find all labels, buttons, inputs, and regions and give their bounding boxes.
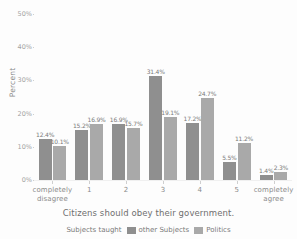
y-tick-label: 50% xyxy=(0,10,32,18)
bar-value-label: 31.4% xyxy=(147,68,165,75)
bar-value-label: 24.7% xyxy=(198,90,216,97)
bar-value-label: 10.1% xyxy=(51,138,69,145)
y-tick-label: 40% xyxy=(0,43,32,51)
bar xyxy=(186,123,199,180)
bar-value-label: 5.5% xyxy=(222,154,236,161)
y-tick-label: 10% xyxy=(0,143,32,151)
bar xyxy=(201,98,214,180)
bar xyxy=(53,146,66,180)
clipped-title xyxy=(34,0,292,10)
bar xyxy=(223,162,236,180)
bar-value-label: 12.4% xyxy=(36,131,54,138)
x-tick-label: 1 xyxy=(87,186,92,195)
bar-value-label: 17.2% xyxy=(184,115,202,122)
bar-value-label: 2.3% xyxy=(274,164,288,171)
legend-label-politics: Politics xyxy=(206,226,230,234)
bar-value-label: 19.1% xyxy=(161,109,179,116)
bar xyxy=(127,128,140,180)
x-tick-label: 3 xyxy=(161,186,166,195)
legend-swatch-other-subjects xyxy=(127,227,136,234)
bar-value-label: 15.7% xyxy=(124,120,142,127)
y-tick-label: 20% xyxy=(0,110,32,118)
bar xyxy=(274,172,287,180)
x-axis-title: Citizens should obey their government. xyxy=(0,208,297,218)
bar xyxy=(112,124,125,180)
bar xyxy=(164,117,177,180)
legend-item-politics: Politics xyxy=(194,226,230,234)
x-tick-mark xyxy=(274,181,275,184)
bar xyxy=(39,139,52,180)
legend-item-other-subjects: other Subjects xyxy=(127,226,190,234)
x-tick-mark xyxy=(126,181,127,184)
bar-value-label: 1.4% xyxy=(259,167,273,174)
x-tick-label: 5 xyxy=(234,186,239,195)
x-tick-label: 2 xyxy=(124,186,129,195)
bar xyxy=(75,130,88,180)
x-tick-mark xyxy=(89,181,90,184)
bar xyxy=(238,143,251,180)
bar xyxy=(260,175,273,180)
plot-area: 12.4%10.1%15.2%16.9%16.9%15.7%31.4%19.1%… xyxy=(34,14,292,180)
bar-value-label: 16.9% xyxy=(88,116,106,123)
y-tick-label: 30% xyxy=(0,76,32,84)
bar xyxy=(149,76,162,180)
x-tick-label: completelyagree xyxy=(254,186,294,204)
x-tick-mark xyxy=(200,181,201,184)
legend-title: Subjects taught xyxy=(66,226,121,234)
x-tick-label: 4 xyxy=(198,186,203,195)
x-tick-mark xyxy=(52,181,53,184)
legend-label-other-subjects: other Subjects xyxy=(139,226,190,234)
x-tick-mark xyxy=(163,181,164,184)
bar-value-label: 11.2% xyxy=(235,135,253,142)
y-tick-label: 0% xyxy=(0,176,32,184)
chart-legend: Subjects taught other Subjects Politics xyxy=(0,226,297,234)
bar xyxy=(90,124,103,180)
x-tick-label: completelydisagree xyxy=(33,186,73,204)
bar-chart-figure: Percent 0%10%20%30%40%50% 12.4%10.1%15.2… xyxy=(0,0,297,239)
legend-swatch-politics xyxy=(194,227,203,234)
x-tick-mark xyxy=(237,181,238,184)
